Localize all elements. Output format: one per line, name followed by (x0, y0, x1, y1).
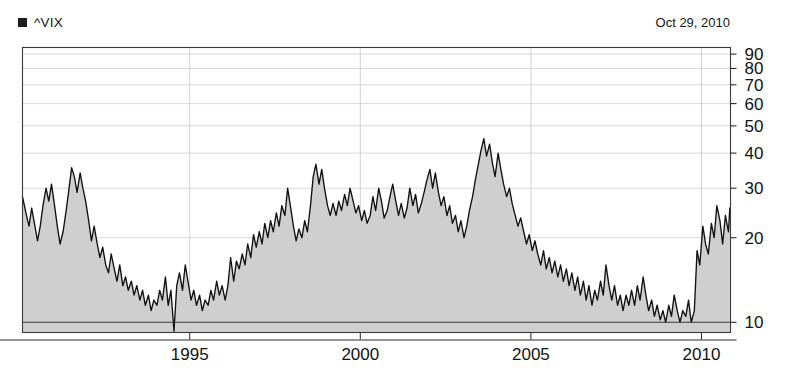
series-vix (23, 139, 731, 333)
vix-chart: ^VIX Oct 29, 2010 102030405060708090 199… (0, 0, 790, 382)
svg-text:2005: 2005 (512, 345, 550, 364)
svg-text:1995: 1995 (171, 345, 209, 364)
svg-text:70: 70 (745, 76, 764, 95)
svg-text:2000: 2000 (341, 345, 379, 364)
plot-area: 102030405060708090 1995200020052010 (0, 0, 790, 382)
svg-text:2010: 2010 (683, 345, 721, 364)
svg-text:20: 20 (745, 229, 764, 248)
svg-text:90: 90 (745, 45, 764, 64)
svg-text:40: 40 (745, 144, 764, 163)
svg-text:30: 30 (745, 179, 764, 198)
svg-text:50: 50 (745, 117, 764, 136)
x-axis-labels: 1995200020052010 (171, 345, 721, 364)
y-axis-labels: 102030405060708090 (745, 45, 764, 332)
svg-text:10: 10 (745, 313, 764, 332)
svg-text:60: 60 (745, 95, 764, 114)
